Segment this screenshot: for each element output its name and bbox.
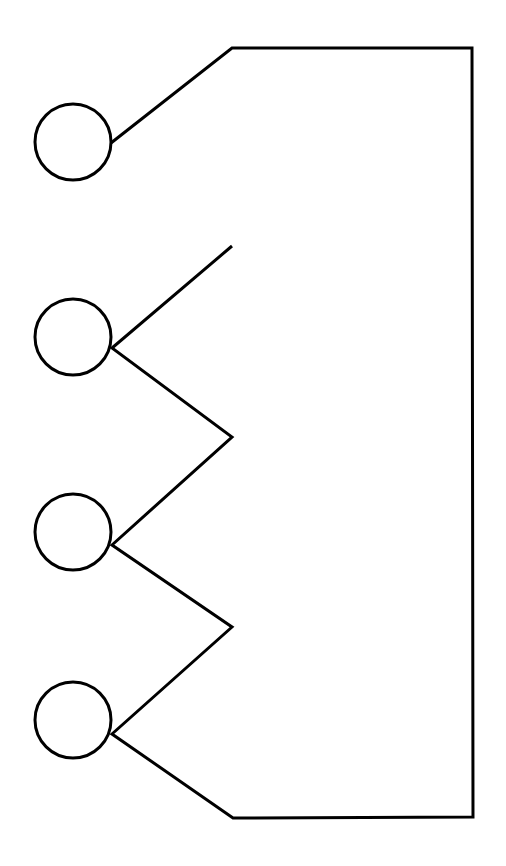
circle-4[interactable]	[35, 682, 111, 758]
circle-1[interactable]	[35, 104, 111, 180]
drawing-canvas	[0, 0, 506, 866]
circle-3[interactable]	[35, 494, 111, 570]
diagram-svg	[0, 0, 506, 866]
circle-2[interactable]	[35, 299, 111, 375]
